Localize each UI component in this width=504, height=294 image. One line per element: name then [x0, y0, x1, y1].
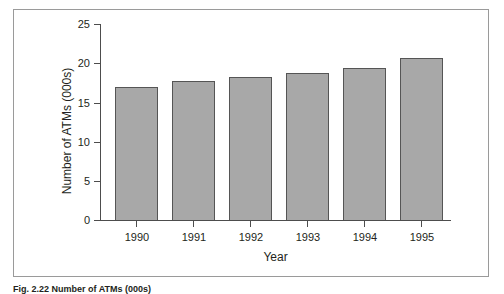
x-tick-1994 [364, 221, 365, 227]
figure-page: 0 5 10 15 20 25 [0, 0, 504, 294]
x-axis-title: Year [100, 251, 451, 264]
y-tick-20 [94, 63, 100, 64]
x-tick-1993 [307, 221, 308, 227]
x-tick-1995 [421, 221, 422, 227]
x-tick-label-1994: 1994 [337, 231, 393, 243]
x-tick-1990 [136, 221, 137, 227]
y-tick-25 [94, 24, 100, 25]
bar-1992 [229, 77, 272, 220]
figure-caption: Fig. 2.22 Number of ATMs (000s) [13, 284, 483, 294]
bar-1991 [172, 81, 215, 220]
x-tick-1991 [193, 221, 194, 227]
y-tick-label-25-wrap: 25 [48, 19, 90, 30]
x-tick-label-1990: 1990 [109, 231, 165, 243]
bar-1995 [400, 58, 443, 220]
x-axis-line [100, 220, 451, 221]
y-tick-0 [94, 220, 100, 221]
y-tick-label-0-wrap: 0 [48, 215, 90, 226]
x-tick-1992 [250, 221, 251, 227]
y-axis-title: Number of ATMs (000s) [61, 56, 73, 206]
y-axis-line [100, 24, 101, 221]
bar-chart: 0 5 10 15 20 25 [0, 0, 504, 294]
y-tick-10 [94, 142, 100, 143]
x-tick-label-1993: 1993 [280, 231, 336, 243]
y-tick-label-0: 0 [50, 215, 90, 226]
y-tick-5 [94, 181, 100, 182]
bar-1994 [343, 68, 386, 220]
y-tick-15 [94, 103, 100, 104]
y-tick-label-25: 25 [50, 19, 90, 30]
x-tick-label-1991: 1991 [166, 231, 222, 243]
x-tick-label-1995: 1995 [394, 231, 450, 243]
bar-1990 [115, 87, 158, 220]
x-tick-label-1992: 1992 [223, 231, 279, 243]
bar-1993 [286, 73, 329, 220]
